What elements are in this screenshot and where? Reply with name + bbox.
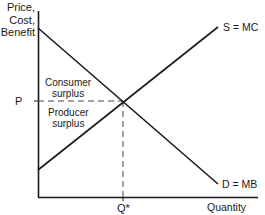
y-axis-title: Price, Cost, Benefit [1,1,35,39]
y-axis-title-line: Price, [1,1,35,14]
producer-surplus-label: Producer surplus [48,107,89,129]
supply-curve-label: S = MC [223,21,258,33]
y-axis-title-line: Benefit [1,26,35,39]
producer-surplus-line: surplus [48,118,89,129]
y-axis-title-line: Cost, [1,14,35,27]
demand-curve [38,28,218,184]
price-tick-label: P [15,95,22,107]
consumer-surplus-label: Consumer surplus [45,77,91,99]
x-axis-title: Quantity [207,201,246,213]
consumer-surplus-line: Consumer [45,77,91,88]
demand-curve-label: D = MB [222,178,257,190]
producer-surplus-line: Producer [48,107,89,118]
consumer-surplus-line: surplus [45,88,91,99]
quantity-tick-label: Q* [117,202,130,214]
